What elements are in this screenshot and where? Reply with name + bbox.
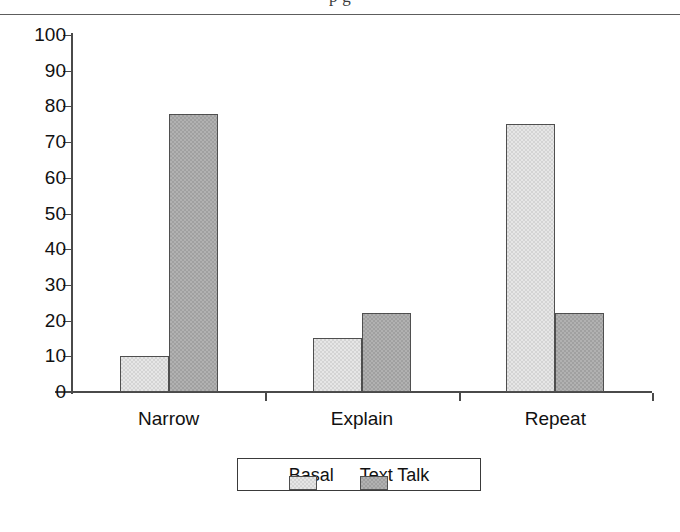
x-tick-mark [459, 393, 461, 401]
category-label-repeat: Repeat [475, 408, 635, 430]
bar-repeat-text-talk [555, 313, 604, 392]
bar-narrow-basal [120, 356, 169, 392]
legend-swatch-basal [289, 476, 317, 490]
clipped-page-title: p g [0, 0, 680, 7]
y-tick-label: 10 [45, 346, 66, 366]
y-tick-label: 20 [45, 311, 66, 331]
y-tick-label: 40 [45, 239, 66, 259]
y-tick-label: 60 [45, 168, 66, 188]
y-tick-label: 100 [34, 25, 66, 45]
y-tick-label: 70 [45, 132, 66, 152]
category-label-explain: Explain [282, 408, 442, 430]
y-tick-label: 0 [55, 382, 66, 402]
x-tick-mark [652, 393, 654, 401]
legend-swatch-text-talk [360, 476, 388, 490]
y-tick-label: 90 [45, 61, 66, 81]
bar-explain-basal [313, 338, 362, 392]
bar-narrow-text-talk [169, 114, 218, 392]
category-label-narrow: Narrow [89, 408, 249, 430]
scanned-page: p g 0102030405060708090100 NarrowExplain… [0, 0, 680, 532]
y-tick-label: 50 [45, 204, 66, 224]
x-tick-mark [265, 393, 267, 401]
bar-explain-text-talk [362, 313, 411, 392]
page-top-rule [0, 14, 680, 15]
chart-legend: Basal Text Talk [237, 458, 481, 491]
grouped-bar-chart: 0102030405060708090100 NarrowExplainRepe… [0, 20, 680, 532]
legend-entry-basal: Basal [289, 465, 334, 485]
y-tick-label: 30 [45, 275, 66, 295]
bar-repeat-basal [506, 124, 555, 392]
legend-entry-text-talk: Text Talk [360, 465, 430, 485]
y-tick-label: 80 [45, 96, 66, 116]
plot-area: 0102030405060708090100 [72, 35, 652, 392]
